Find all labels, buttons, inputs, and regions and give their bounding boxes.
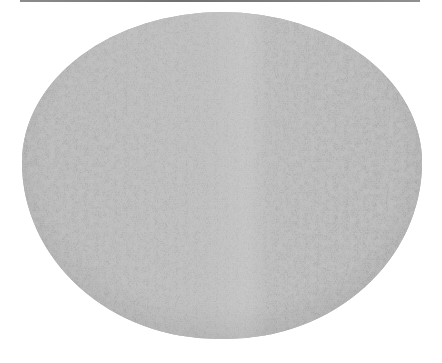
image-canvas: A single oval, gray, speckled object res…	[0, 0, 442, 363]
top-edge-line	[20, 0, 420, 2]
melon-oval	[22, 12, 422, 339]
melon-texture	[22, 12, 422, 339]
